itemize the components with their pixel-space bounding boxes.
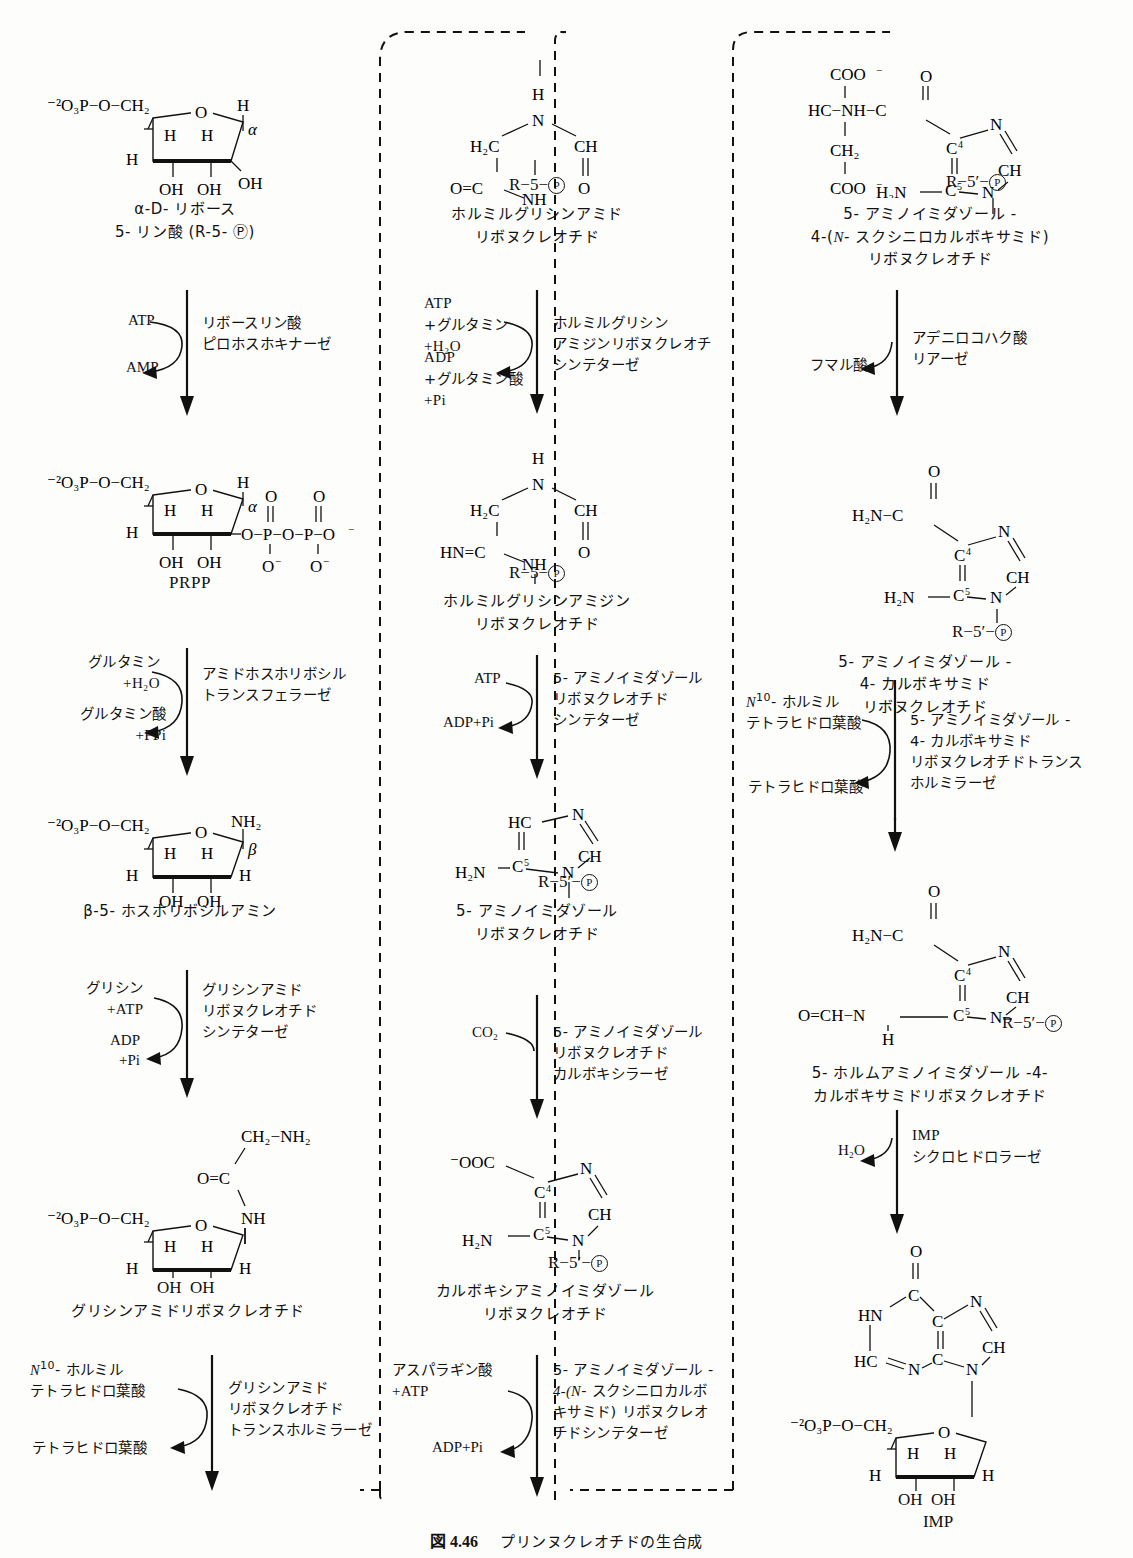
structure-phosphoribosylamine: ⁻²O₃P−O−CH₂ O NH₂ β H H H H OH OH — [45, 805, 335, 914]
air-r5prime-tag: R−5′−P — [538, 872, 598, 892]
svg-text:H: H — [239, 866, 251, 885]
svg-text:4: 4 — [966, 966, 971, 977]
svg-text:H: H — [201, 126, 213, 145]
svg-text:O: O — [262, 557, 274, 572]
svg-text:N: N — [572, 1231, 584, 1250]
svg-text:α: α — [248, 120, 258, 139]
faicar-r5prime-tag: R−5′−P — [1002, 1013, 1062, 1033]
enzyme-adenylosuccinate-lyase: アデニロコハク酸 リアーゼ — [912, 328, 1027, 370]
svg-text:4: 4 — [958, 139, 963, 150]
product-adp-pi-middle2: ADP+Pi — [443, 712, 494, 732]
svg-text:H: H — [164, 1237, 176, 1256]
svg-text:O: O — [195, 480, 207, 499]
svg-text:4: 4 — [966, 546, 971, 557]
svg-text:H: H — [532, 449, 544, 468]
svg-text:H: H — [201, 501, 213, 520]
svg-text:H₂N: H₂N — [876, 183, 906, 198]
fgar-n-bond — [530, 160, 540, 178]
svg-text:OH: OH — [159, 180, 184, 199]
svg-text:O: O — [310, 557, 322, 572]
svg-text:CH: CH — [574, 501, 598, 520]
svg-text:−: − — [348, 523, 354, 535]
product-adp-glutamate-middle: ADP +グルタミン酸 +Pi — [424, 347, 523, 412]
svg-text:5: 5 — [524, 857, 529, 868]
svg-text:CH₂: CH₂ — [830, 141, 860, 160]
svg-text:C: C — [954, 966, 965, 985]
svg-text:O: O — [928, 462, 940, 481]
svg-text:H: H — [164, 844, 176, 863]
compound-name-fgam: ホルミルグリシンアミジン リボヌクレオチド — [443, 590, 630, 635]
svg-text:N: N — [970, 1292, 982, 1311]
svg-text:C: C — [534, 1183, 545, 1202]
svg-text:−: − — [876, 64, 882, 76]
svg-text:O: O — [195, 103, 207, 122]
svg-text:⁻OOC: ⁻OOC — [450, 1153, 495, 1172]
enzyme-imp-cyclohydrolase: IMP シクロヒドロラーゼ — [912, 1125, 1042, 1168]
svg-text:CH: CH — [588, 1205, 612, 1224]
svg-text:CH: CH — [982, 1338, 1006, 1357]
structure-glycinamide-ribonucleotide: CH₂−NH₂ O=C NH ⁻²O₃P−O−CH₂ O H H H H — [45, 1118, 345, 1282]
svg-text:5: 5 — [965, 586, 970, 597]
svg-text:O: O — [195, 823, 207, 842]
substrate-glutamine-left: グルタミン +H₂O — [88, 652, 160, 695]
svg-text:O: O — [578, 179, 590, 198]
compound-name-faicar: 5- ホルムアミノイミダゾール -4- カルボキサミドリボヌクレオチド — [812, 1062, 1048, 1107]
svg-text:N: N — [908, 1360, 920, 1379]
compound-name-fgar: ホルミルグリシンアミド リボヌクレオチド — [451, 203, 623, 248]
svg-text:H₂C: H₂C — [470, 501, 500, 520]
svg-text:H: H — [201, 844, 213, 863]
svg-text:O=CH−N: O=CH−N — [798, 1006, 865, 1025]
product-glutamate-left: グルタミン酸 +PPi — [80, 704, 166, 747]
svg-text:CH₂−NH₂: CH₂−NH₂ — [241, 1127, 311, 1146]
substrate-atp-middle2: ATP — [474, 668, 501, 688]
svg-text:C: C — [953, 586, 964, 605]
svg-text:−: − — [275, 555, 281, 567]
svg-text:HN=C: HN=C — [440, 543, 485, 562]
compound-name-cair: カルボキシアミノイミダゾール リボヌクレオチド — [436, 1280, 654, 1325]
svg-text:O: O — [928, 882, 940, 901]
product-fumarate-right: フマル酸 — [810, 355, 868, 376]
svg-text:H₂N: H₂N — [884, 588, 914, 607]
structure-ribose-5-phosphate: ⁻²O₃P−O−CH₂ O O H α H H H OH OH OH — [45, 85, 335, 204]
svg-text:H: H — [164, 501, 176, 520]
svg-text:H: H — [944, 1444, 956, 1463]
product-thf-left: テトラヒドロ葉酸 — [32, 1438, 147, 1459]
enzyme-amidophosphoribosyltransferase: アミドホスホリボシル トランスフェラーゼ — [202, 664, 346, 706]
svg-text:O: O — [195, 1216, 207, 1235]
structure-prpp: ⁻²O₃P−O−CH₂ O H α H H H OH OH O−P−O−P−O … — [45, 462, 365, 576]
svg-text:H₂C: H₂C — [470, 137, 500, 156]
compound-name-r5p: α-D- リボース 5- リン酸 (R-5- Ⓟ) — [115, 198, 255, 243]
svg-text:H: H — [126, 523, 138, 542]
substrate-atp-1: ATP — [128, 310, 155, 330]
substrate-co2-middle: CO₂ — [472, 1022, 498, 1042]
svg-text:N: N — [990, 588, 1002, 607]
svg-text:H: H — [882, 1030, 894, 1049]
svg-text:C: C — [908, 1286, 919, 1305]
product-adp-left: ADP +Pi — [110, 1030, 140, 1071]
product-amp-1: AMP — [126, 357, 159, 377]
svg-text:O: O — [910, 1242, 922, 1261]
svg-text:HC: HC — [508, 813, 532, 832]
svg-text:N: N — [532, 475, 544, 494]
structure-saicar: COO − HC−NH−C CH₂ COO − O C 4 N CH C — [790, 58, 1070, 202]
svg-text:⁻²O₃P−O−CH₂: ⁻²O₃P−O−CH₂ — [47, 473, 150, 492]
svg-text:N: N — [998, 522, 1010, 541]
svg-text:H: H — [239, 1259, 251, 1278]
compound-name-pra: β-5- ホスホリボシルアミン — [83, 900, 277, 923]
svg-text:4: 4 — [546, 1183, 551, 1194]
svg-text:⁻²O₃P−O−CH₂: ⁻²O₃P−O−CH₂ — [47, 1209, 150, 1228]
svg-text:C: C — [512, 857, 523, 876]
svg-text:C: C — [954, 546, 965, 565]
svg-text:O: O — [313, 487, 325, 506]
svg-text:N: N — [580, 1159, 592, 1178]
figure-canvas: ⁻²O₃P−O−CH₂ O O H α H H H OH OH OH α-D- … — [0, 0, 1133, 1558]
fgar-r5p-tag: R−5−P — [509, 175, 565, 195]
structure-faicar: O H₂N−C C 4 N CH — [790, 875, 1040, 1014]
enzyme-gar-transformylase: グリシンアミド リボヌクレオチド トランスホルミラーゼ — [228, 1378, 372, 1441]
figure-number: 図 4.46 — [430, 1533, 478, 1550]
svg-text:O: O — [938, 1423, 950, 1442]
product-water-right: H₂O — [838, 1140, 865, 1160]
reaction-arrow-aicar-transformylase-head — [830, 818, 1030, 858]
svg-text:O: O — [920, 67, 932, 86]
svg-text:C: C — [953, 1006, 964, 1025]
